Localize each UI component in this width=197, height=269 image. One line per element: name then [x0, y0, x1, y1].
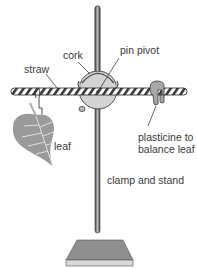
- label-plasticine-line1: plasticine to: [138, 131, 193, 143]
- plasticine: [150, 81, 164, 105]
- label-plasticine-line2: balance leaf: [138, 143, 195, 155]
- label-clamp-and-stand: clamp and stand: [107, 174, 184, 186]
- label-cork: cork: [63, 49, 83, 61]
- stand-base: [66, 240, 133, 266]
- pin-pivot: [96, 90, 99, 93]
- label-leaf: leaf: [54, 140, 71, 152]
- balance-diagram: cork pin pivot straw leaf plasticine to …: [0, 0, 197, 269]
- label-pin-pivot: pin pivot: [120, 44, 159, 56]
- label-straw: straw: [24, 63, 49, 75]
- leaf: [13, 103, 54, 166]
